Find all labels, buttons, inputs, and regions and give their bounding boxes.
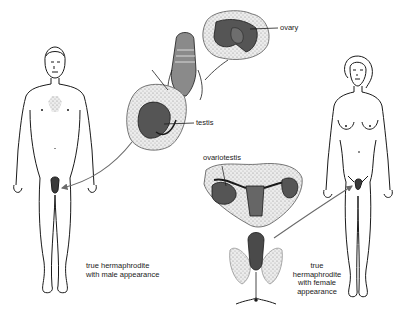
male-genital [51,177,59,193]
female-figure-caption: true hermaphrodite with female appearanc… [282,262,352,296]
female-breasts [338,120,378,129]
male-figure [14,47,97,293]
male-chest-hair [48,96,62,112]
male-figure-caption: true hermaphrodite with male appearance [86,262,159,279]
female-figure [324,56,393,297]
ovary-label: ovary [280,24,298,32]
connector-line-right [205,60,228,80]
male-legs [39,178,71,293]
male-caption-line-2: with male appearance [86,271,159,280]
female-torso [326,92,390,190]
external-genitalia-drawing [230,233,283,305]
male-arrow [62,142,132,188]
female-head [345,56,373,88]
female-genital [355,179,362,190]
testis-label: testis [196,119,214,127]
ovariotestis-label: ovariotestis [203,154,241,162]
female-neck [354,86,362,92]
right-gonad [282,178,298,198]
female-caption-line-4: appearance [282,288,352,297]
ovariotestis-inset [204,164,302,227]
female-waist [340,140,376,182]
male-torso-inner [30,110,80,178]
male-head [45,47,65,78]
ovary-inset [203,11,278,60]
male-neck [51,78,59,84]
